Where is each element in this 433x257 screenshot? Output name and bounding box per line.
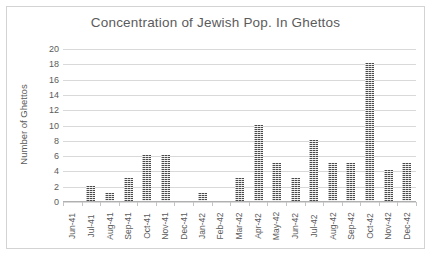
bar-slot	[249, 49, 268, 201]
bar-slot	[193, 49, 212, 201]
x-tick-label-text: Apr-42	[253, 213, 263, 239]
x-tick-mark	[267, 202, 268, 206]
y-tick-label: 0	[39, 198, 59, 207]
x-tick-label-text: Oct-41	[142, 213, 152, 239]
bar[interactable]	[198, 193, 207, 201]
x-tick-mark	[342, 202, 343, 206]
bar-slot	[397, 49, 416, 201]
bar[interactable]	[124, 178, 133, 201]
bar-slot	[174, 49, 193, 201]
x-tick-mark	[174, 202, 175, 206]
x-tick-label-text: Jun-42	[290, 213, 300, 239]
x-tick-mark	[100, 202, 101, 206]
x-axis-tick-labels: Jun-41Jul-41Aug-41Sep-41Oct-41Nov-41Dec-…	[63, 207, 416, 251]
x-tick-label: Nov-42	[379, 207, 398, 251]
bars-group	[63, 49, 416, 202]
bar-slot	[342, 49, 361, 201]
y-axis-title: Number of Ghettos	[15, 45, 31, 203]
x-tick-label: Mar-42	[230, 207, 249, 251]
y-axis-title-label: Number of Ghettos	[18, 84, 29, 164]
x-tick-label: Dec-42	[397, 207, 416, 251]
x-tick-label: Jun-42	[286, 207, 305, 251]
bar[interactable]	[291, 178, 300, 201]
bar[interactable]	[272, 163, 281, 201]
bar[interactable]	[365, 63, 374, 201]
x-tick-label: Jun-41	[63, 207, 82, 251]
plot-area	[63, 49, 416, 202]
y-tick-label: 14	[39, 90, 59, 99]
bar-slot	[230, 49, 249, 201]
x-tick-label: Feb-42	[212, 207, 231, 251]
y-tick-label: 16	[39, 75, 59, 84]
x-tick-label-text: Dec-42	[402, 212, 412, 239]
bar[interactable]	[402, 163, 411, 201]
x-tick-mark	[230, 202, 231, 206]
x-tick-mark	[137, 202, 138, 206]
bar[interactable]	[254, 125, 263, 202]
x-tick-mark	[323, 202, 324, 206]
y-tick-label: 18	[39, 60, 59, 69]
x-tick-label: Jul-42	[305, 207, 324, 251]
x-tick-label-text: May-42	[272, 212, 282, 240]
x-tick-label: Dec-41	[174, 207, 193, 251]
bar[interactable]	[328, 163, 337, 201]
y-tick-label: 4	[39, 167, 59, 176]
x-tick-mark	[156, 202, 157, 206]
x-tick-label-text: Dec-41	[179, 212, 189, 239]
bar-slot	[305, 49, 324, 201]
x-tick-label: Aug-41	[100, 207, 119, 251]
x-tick-mark	[379, 202, 380, 206]
x-tick-label-text: Nov-42	[383, 212, 393, 239]
x-tick-mark	[119, 202, 120, 206]
x-tick-mark	[193, 202, 194, 206]
x-tick-label-text: Aug-41	[104, 212, 114, 239]
x-tick-label: Oct-42	[360, 207, 379, 251]
x-tick-label: Apr-42	[249, 207, 268, 251]
x-tick-mark	[360, 202, 361, 206]
y-tick-label: 12	[39, 106, 59, 115]
bar-slot	[286, 49, 305, 201]
bar[interactable]	[105, 193, 114, 201]
bar-slot	[82, 49, 101, 201]
x-tick-label: Jan-42	[193, 207, 212, 251]
x-tick-label: Aug-42	[323, 207, 342, 251]
bar[interactable]	[235, 178, 244, 201]
y-tick-label: 8	[39, 136, 59, 145]
x-tick-mark	[286, 202, 287, 206]
y-tick-label: 20	[39, 45, 59, 54]
x-tick-label: Sep-41	[119, 207, 138, 251]
bar-slot	[156, 49, 175, 201]
bar[interactable]	[86, 186, 95, 201]
x-tick-mark	[305, 202, 306, 206]
x-tick-label-text: Jul-41	[86, 214, 96, 237]
bar-slot	[100, 49, 119, 201]
bar-slot	[379, 49, 398, 201]
y-tick-label: 6	[39, 152, 59, 161]
x-tick-mark	[397, 202, 398, 206]
bar[interactable]	[309, 140, 318, 201]
x-tick-label: Oct-41	[137, 207, 156, 251]
x-tick-label-text: Feb-42	[216, 213, 226, 240]
y-tick-label: 10	[39, 121, 59, 130]
x-tick-label-text: Jun-41	[67, 213, 77, 239]
x-tick-mark	[82, 202, 83, 206]
x-tick-mark	[63, 202, 64, 206]
bar-slot	[119, 49, 138, 201]
x-tick-mark	[212, 202, 213, 206]
x-tick-mark	[249, 202, 250, 206]
bar[interactable]	[142, 155, 151, 201]
y-axis-tick-labels: 20181614121086420	[37, 49, 59, 202]
bar-slot	[63, 49, 82, 201]
x-tick-label-text: Jul-42	[309, 214, 319, 237]
x-tick-label-text: Sep-41	[123, 212, 133, 239]
x-tick-label: May-42	[267, 207, 286, 251]
bar-slot	[137, 49, 156, 201]
bar[interactable]	[161, 155, 170, 201]
x-tick-label-text: Mar-42	[235, 213, 245, 240]
bar[interactable]	[384, 170, 393, 201]
bar[interactable]	[346, 163, 355, 201]
x-tick-label-text: Jan-42	[197, 213, 207, 239]
x-tick-label-text: Aug-42	[327, 212, 337, 239]
x-tick-label-text: Oct-42	[365, 213, 375, 239]
x-tick-label-text: Nov-41	[160, 212, 170, 239]
